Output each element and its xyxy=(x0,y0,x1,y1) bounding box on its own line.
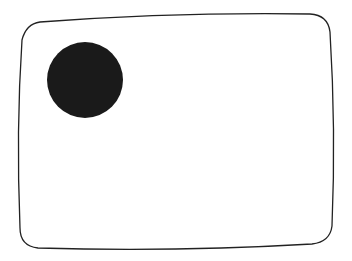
diagram-canvas xyxy=(0,0,352,261)
diagram-svg xyxy=(0,0,352,261)
black-circle xyxy=(47,42,123,118)
